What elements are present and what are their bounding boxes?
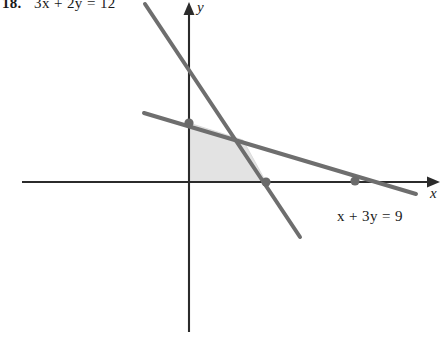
coordinate-plane-graphic: [0, 0, 445, 347]
equation-label-top: 3x + 2y = 12: [34, 0, 116, 11]
point-x-intercept-3x-plus-2y: [261, 177, 270, 186]
graph-figure: 18. 3x + 2y = 12 x + 3y = 9 x y: [0, 0, 445, 347]
y-axis-arrowhead: [184, 2, 195, 15]
equation-label-bottom: x + 3y = 9: [337, 209, 403, 224]
problem-number: 18.: [2, 0, 21, 11]
x-axis-label: x: [430, 186, 437, 201]
point-y-intercept-x-plus-3y: [184, 118, 193, 127]
y-axis-label: y: [197, 0, 204, 15]
point-x-intercept-x-plus-3y: [350, 176, 359, 185]
